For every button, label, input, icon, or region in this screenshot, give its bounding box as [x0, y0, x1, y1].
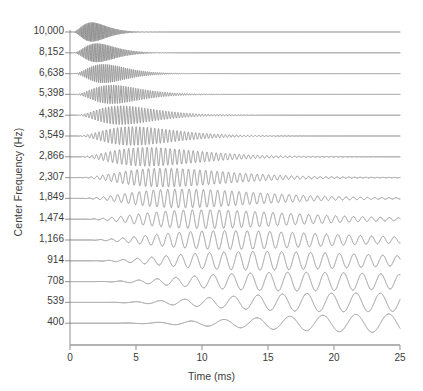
x-tick-label: 20: [328, 352, 339, 363]
x-tick-label: 0: [67, 352, 73, 363]
x-tick-label: 15: [262, 352, 273, 363]
x-tick-label: 25: [394, 352, 405, 363]
x-tick-label: 10: [196, 352, 207, 363]
x-axis-tick-labels: 0510152025: [0, 0, 423, 391]
gammatone-impulse-response-chart: 10,0008,1526,6385,3984,3823,5492,8662,30…: [0, 0, 423, 391]
y-axis-title: Center Frequency (Hz): [12, 102, 24, 262]
x-axis-title: Time (ms): [0, 370, 423, 382]
x-tick-label: 5: [133, 352, 139, 363]
